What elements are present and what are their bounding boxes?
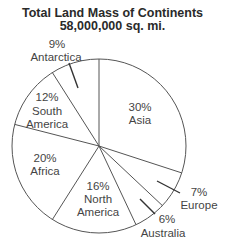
- europe-percent-label: 7%: [191, 186, 208, 198]
- south-america-percent-label: 12%: [35, 91, 58, 103]
- australia-name-label: Australia: [141, 227, 186, 239]
- europe-name-label: Europe: [180, 199, 217, 211]
- north-america-name-label-2: America: [77, 206, 120, 218]
- north-america-percent-label: 16%: [86, 180, 109, 192]
- australia-percent-label: 6%: [159, 213, 176, 225]
- pie-chart: 30% Asia 9% Antarctica 12% South America…: [0, 0, 225, 247]
- africa-name-label: Africa: [30, 165, 60, 177]
- antarctica-percent-label: 9%: [49, 38, 66, 50]
- south-america-name-label-2: America: [26, 118, 69, 130]
- antarctica-name-label: Antarctica: [30, 51, 82, 63]
- south-america-name-label-1: South: [32, 105, 62, 117]
- africa-percent-label: 20%: [33, 152, 56, 164]
- asia-name-label: Asia: [129, 114, 152, 126]
- north-america-name-label-1: North: [84, 193, 112, 205]
- asia-percent-label: 30%: [128, 101, 151, 113]
